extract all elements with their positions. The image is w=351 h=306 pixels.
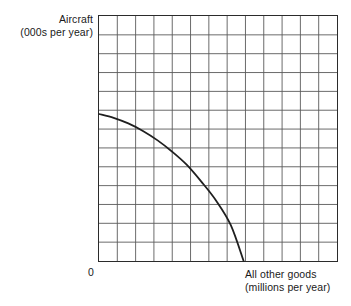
y-axis-label: Aircraft (000s per year) — [20, 13, 93, 39]
x-axis-label: All other goods (millions per year) — [245, 268, 330, 294]
y-axis-label-line1: Aircraft — [20, 13, 93, 26]
y-axis-label-line2: (000s per year) — [20, 26, 93, 39]
ppf-chart-figure: Aircraft (000s per year) 0 All other goo… — [0, 0, 351, 306]
x-axis-label-line1: All other goods — [245, 268, 330, 281]
ppf-curve — [99, 16, 337, 261]
plot-area — [98, 15, 338, 262]
x-axis-label-line2: (millions per year) — [245, 281, 330, 294]
origin-tick-label: 0 — [88, 266, 94, 279]
ppf-curve-path — [99, 114, 244, 261]
